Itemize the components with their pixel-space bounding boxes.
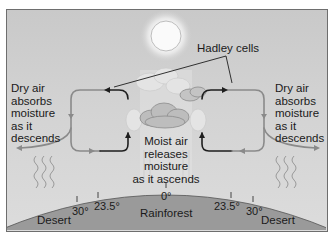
center-annotation-line: releases [116,148,216,161]
latitude-label-equator: 0° [161,190,172,202]
latitude-label-right-23-5: 23.5° [214,200,240,212]
left-annotation: Dry air absorbs moisture as it descends [11,82,60,145]
right-annotation-line: absorbs [275,95,324,108]
right-annotation: Dry air absorbs moisture as it descends [275,82,324,145]
hadley-cells-label: Hadley cells [197,42,259,55]
zone-label-right-desert: Desert [261,214,295,227]
heat-waves-left [34,156,54,188]
heat-waves-right [276,156,296,188]
center-annotation-line: Moist air [116,135,216,148]
hadley-cell-diagram: Hadley cells Dry air absorbs moisture as… [0,0,332,238]
left-annotation-line: as it [11,120,60,133]
right-annotation-line: moisture [275,107,324,120]
left-annotation-line: descends [11,132,60,145]
left-annotation-line: moisture [11,107,60,120]
center-annotation: Moist air releases moisture as it ascend… [116,135,216,185]
sun-icon [140,10,192,62]
center-annotation-line: as it ascends [116,173,216,186]
right-annotation-line: descends [275,132,324,145]
zone-label-left-desert: Desert [37,214,71,227]
right-annotation-line: Dry air [275,82,324,95]
right-annotation-line: as it [275,120,324,133]
left-annotation-line: Dry air [11,82,60,95]
latitude-label-left-30: 30° [72,205,89,217]
latitude-label-left-23-5: 23.5° [94,200,120,212]
left-annotation-line: absorbs [11,95,60,108]
center-annotation-line: moisture [116,160,216,173]
zone-label-rainforest: Rainforest [140,207,192,220]
